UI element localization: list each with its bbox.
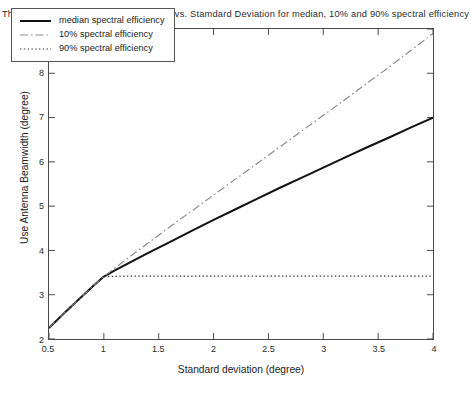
x-tick-label: 0.5 xyxy=(28,345,68,354)
x-axis-tick-labels: 0.511.522.533.54 xyxy=(48,345,434,359)
x-tick-label: 2 xyxy=(193,345,233,354)
x-tick-label: 3 xyxy=(304,345,344,354)
legend-label: median spectral efficiency xyxy=(59,16,165,25)
legend-label: 10% spectral efficiency xyxy=(59,30,153,39)
x-axis-label: Standard deviation (degree) xyxy=(48,364,434,375)
x-tick-label: 1 xyxy=(83,345,123,354)
legend-line-sample xyxy=(19,29,52,41)
x-tick-label: 4 xyxy=(414,345,454,354)
legend-line-sample xyxy=(19,43,52,55)
legend-label: 90% spectral efficiency xyxy=(59,44,153,53)
legend-item: 10% spectral efficiency xyxy=(19,28,165,42)
legend-line-sample xyxy=(19,15,52,27)
series-line-0 xyxy=(49,118,433,328)
legend-item: 90% spectral efficiency xyxy=(19,42,165,56)
x-tick-label: 3.5 xyxy=(359,345,399,354)
plot-area xyxy=(48,28,434,340)
x-tick-label: 2.5 xyxy=(249,345,289,354)
plot-svg xyxy=(49,29,433,339)
y-axis-label: Use Antenna Beamwidth (degree) xyxy=(19,58,30,278)
legend: median spectral efficiency10% spectral e… xyxy=(11,8,175,62)
series-line-1 xyxy=(49,33,433,328)
legend-item: median spectral efficiency xyxy=(19,14,165,28)
y-tick-label: 3 xyxy=(18,291,44,300)
y-tick-label: 2 xyxy=(18,336,44,345)
series-line-2 xyxy=(49,276,433,328)
data-series-layer xyxy=(49,33,433,328)
axis-tick-marks xyxy=(49,29,433,339)
figure: The Optimum User Antenna Beamwidth vs. S… xyxy=(0,0,471,395)
x-tick-label: 1.5 xyxy=(138,345,178,354)
